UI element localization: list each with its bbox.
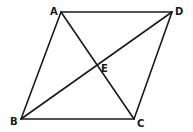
parallelogram-diagram: A D B C E (0, 0, 193, 132)
segment-bd (21, 12, 172, 119)
segment-ba (21, 12, 61, 119)
segments (21, 12, 172, 119)
label-c: C (137, 118, 144, 129)
label-a: A (50, 6, 58, 17)
label-d: D (175, 6, 183, 17)
segment-dc (134, 12, 172, 119)
label-b: B (10, 116, 18, 127)
label-e: E (101, 63, 108, 74)
